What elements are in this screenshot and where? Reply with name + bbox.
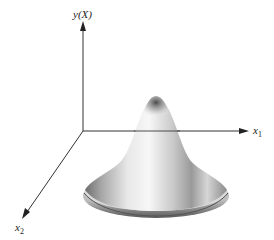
- x1-axis-arrowhead-icon: [239, 128, 249, 134]
- plot-canvas: [0, 0, 274, 240]
- x2-axis-label: x2: [15, 222, 24, 236]
- x1-axis-label-sub: 1: [258, 130, 262, 139]
- y-axis-arrowhead-icon: [80, 21, 86, 31]
- surface-plot-figure: y(X) x1 x2: [0, 0, 274, 240]
- y-axis-label: y(X): [73, 9, 92, 20]
- x1-axis-label: x1: [253, 125, 262, 139]
- x2-axis-line: [27, 131, 83, 212]
- x2-axis-label-sub: 2: [20, 227, 24, 236]
- bell-surface: [83, 96, 229, 218]
